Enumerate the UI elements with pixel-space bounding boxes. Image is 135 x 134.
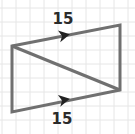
bottom-side-label: 15 bbox=[52, 110, 73, 128]
diagram-canvas: 15 15 bbox=[0, 0, 135, 134]
diagonal bbox=[12, 46, 120, 90]
top-side-label: 15 bbox=[53, 10, 74, 28]
